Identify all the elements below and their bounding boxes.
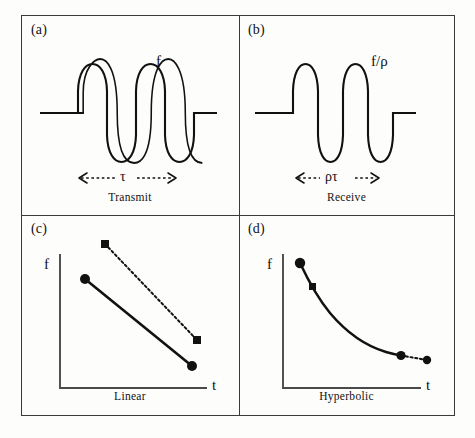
- panel-c: (c) f t Linear: [21, 214, 239, 416]
- panel-d-plot: [238, 214, 455, 416]
- panel-a-duration-label: τ: [120, 169, 126, 185]
- panel-d: (d) f t Hyperbolic: [238, 214, 455, 416]
- panel-b-caption: Receive: [238, 191, 455, 203]
- panel-b-duration-arrow: [238, 15, 455, 215]
- panel-a-duration-arrow: [21, 15, 239, 215]
- panel-b-duration-label: ρτ: [325, 169, 338, 185]
- panel-a: (a) f τ Transmit: [21, 15, 239, 215]
- panel-c-plot: [21, 214, 239, 416]
- panel-c-caption: Linear: [21, 390, 239, 402]
- figure-root: (a) f τ Transmit (b) f/ρ ρτ: [0, 0, 475, 438]
- panel-b: (b) f/ρ ρτ Receive: [238, 15, 455, 215]
- panel-d-ylabel: f: [267, 256, 272, 273]
- panel-d-caption: Hyperbolic: [238, 390, 455, 402]
- panel-c-ylabel: f: [44, 256, 49, 273]
- panel-a-caption: Transmit: [21, 191, 239, 203]
- panel-d-axes: [283, 254, 421, 388]
